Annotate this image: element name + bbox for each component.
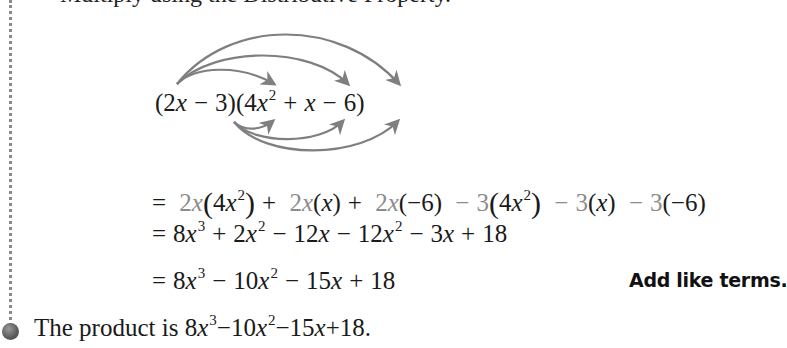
coef: 4	[499, 189, 512, 216]
coef: 12	[294, 220, 319, 247]
clipped-heading: Multiply using the Distributive Property…	[60, 0, 451, 7]
var: x	[319, 220, 330, 247]
exponent: 2	[524, 187, 532, 203]
heading-text: Multiply using the Distributive Property…	[60, 0, 451, 7]
op: +	[212, 220, 226, 247]
coef: −6	[407, 189, 434, 216]
var: x	[302, 189, 313, 216]
op: −	[194, 89, 208, 116]
coef: 4	[244, 89, 257, 116]
paren: )	[607, 189, 615, 216]
coef: 10	[231, 314, 256, 341]
op: −	[212, 267, 226, 294]
paren: (	[663, 189, 671, 216]
var: x	[176, 89, 187, 116]
conclusion-prefix: The product is	[34, 314, 185, 341]
arrow-2x-to-neg6	[177, 35, 399, 85]
op: −	[285, 267, 299, 294]
paren: (	[588, 189, 596, 216]
coef: 2	[179, 189, 192, 216]
var: x	[225, 189, 236, 216]
exponent: 3	[198, 218, 206, 234]
op: −	[276, 314, 290, 341]
var: x	[331, 267, 342, 294]
paren: )	[332, 189, 340, 216]
step-note-add-like-terms: Add like terms.	[629, 269, 787, 291]
var: x	[192, 189, 203, 216]
coef: 15	[306, 267, 331, 294]
coef: 3	[430, 220, 443, 247]
equals: =	[152, 220, 166, 247]
exponent: 2	[395, 218, 403, 234]
coef: 2	[233, 220, 246, 247]
var: x	[186, 267, 197, 294]
conclusion-sentence: The product is 8x3−10x2−15x+18.	[34, 314, 371, 342]
op: −	[629, 189, 643, 216]
arrow-neg3-to-neg6	[234, 121, 398, 150]
var: x	[315, 314, 326, 341]
coef: 15	[290, 314, 315, 341]
equals: =	[152, 189, 166, 216]
exponent: 3	[198, 265, 206, 281]
op: +	[262, 189, 276, 216]
coef: 18	[340, 314, 365, 341]
step-3-combine: =8x3−10x2−15x+18	[152, 268, 395, 293]
exponent: 2	[269, 87, 277, 103]
paren: )	[434, 189, 442, 216]
coef: 10	[233, 267, 258, 294]
exponent: 2	[258, 218, 266, 234]
var: x	[258, 267, 269, 294]
op: −	[272, 220, 286, 247]
coef: 2	[375, 189, 388, 216]
coef: 18	[370, 267, 395, 294]
op: +	[461, 220, 475, 247]
var: x	[256, 314, 267, 341]
dotted-margin-rule	[9, 0, 12, 326]
coef: 6	[344, 89, 357, 116]
exponent: 2	[270, 265, 278, 281]
step-1-distribute: = 2x(4x2)+ 2x(x)+ 2x(−6) −3(4x2) −3(x) −…	[152, 186, 706, 216]
var: x	[257, 89, 268, 116]
paren: (	[236, 89, 244, 116]
op: −	[337, 220, 351, 247]
period: .	[365, 314, 371, 341]
op: −	[455, 189, 469, 216]
op: −	[409, 220, 423, 247]
op: +	[349, 267, 363, 294]
bullet-ball-icon	[2, 323, 19, 340]
coef: 3	[215, 89, 228, 116]
coef: 3	[575, 189, 588, 216]
coef: 18	[482, 220, 507, 247]
op: −	[217, 314, 231, 341]
var: x	[304, 89, 315, 116]
paren: (	[399, 189, 407, 216]
arrow-neg3-to-4x2	[234, 121, 273, 129]
var: x	[383, 220, 394, 247]
paren: )	[228, 89, 236, 116]
coef: 8	[173, 267, 186, 294]
coef: −6	[671, 189, 698, 216]
coef: 8	[173, 220, 186, 247]
coef: 3	[476, 189, 489, 216]
exponent: 3	[209, 312, 217, 328]
paren: (	[489, 186, 499, 219]
op: +	[283, 89, 297, 116]
exponent: 2	[238, 187, 246, 203]
coef: 4	[213, 189, 226, 216]
coef: 12	[358, 220, 383, 247]
paren: )	[697, 189, 705, 216]
op: −	[323, 89, 337, 116]
coef: 3	[650, 189, 663, 216]
arrow-2x-to-4x2	[177, 70, 274, 84]
product-expression: (2x−3)(4x2+x−6)	[155, 90, 364, 115]
coef: 2	[163, 89, 176, 116]
op: +	[348, 189, 362, 216]
paren: )	[356, 89, 364, 116]
arrow-2x-to-x	[177, 56, 348, 85]
var: x	[321, 189, 332, 216]
var: x	[388, 189, 399, 216]
paren: )	[531, 186, 541, 219]
var: x	[511, 189, 522, 216]
paren: (	[203, 186, 213, 219]
